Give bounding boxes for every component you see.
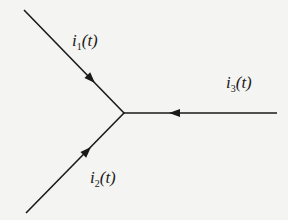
junction-node (123, 112, 125, 114)
branch-i2-label: i2(t) (90, 168, 116, 189)
branch-i2-wire (26, 113, 124, 213)
branch-i3-arrow-icon (169, 109, 180, 117)
branch-i3-label: i3(t) (226, 73, 252, 94)
branch-i1-wire (24, 10, 124, 113)
branch-i1-label: i1(t) (72, 31, 98, 52)
kcl-node-diagram: i1(t) i2(t) i3(t) (0, 0, 288, 220)
